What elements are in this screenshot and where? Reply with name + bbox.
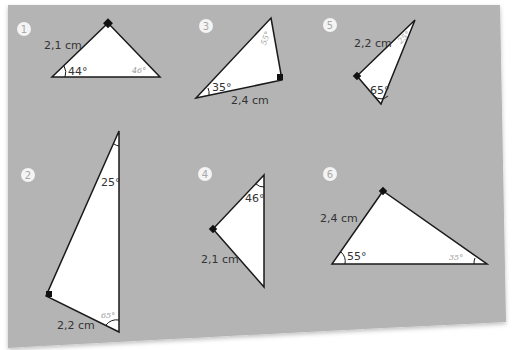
side-label: 2,1 cm — [201, 253, 239, 266]
worksheet-card: 1 2,1 cm 44° 46° 3 35° 2,4 cm 55° 5 2,2 … — [0, 0, 516, 350]
given-angle: 65° — [370, 84, 390, 97]
side-label: 2,1 cm — [44, 39, 82, 52]
problem-number: 1 — [21, 24, 27, 35]
problem-number: 6 — [327, 169, 333, 180]
given-angle: 46° — [245, 192, 265, 205]
side-label: 2,4 cm — [320, 212, 358, 225]
right-angle-marker — [46, 291, 52, 297]
right-angle-marker — [277, 74, 283, 80]
problem-number: 2 — [25, 170, 31, 181]
given-angle: 25° — [101, 176, 121, 189]
side-label: 2,2 cm — [354, 37, 392, 50]
given-angle: 35° — [212, 81, 232, 94]
side-label: 2,4 cm — [231, 94, 269, 107]
handwritten-answer: 35° — [449, 253, 463, 262]
handwritten-answer: 65° — [101, 311, 115, 320]
problem-number: 5 — [327, 20, 333, 31]
problem-number: 4 — [202, 169, 208, 180]
given-angle: 55° — [347, 250, 367, 263]
given-angle: 44° — [68, 65, 88, 78]
side-label: 2,2 cm — [57, 319, 95, 332]
problem-number: 3 — [203, 21, 209, 32]
handwritten-answer: 46° — [131, 66, 146, 75]
